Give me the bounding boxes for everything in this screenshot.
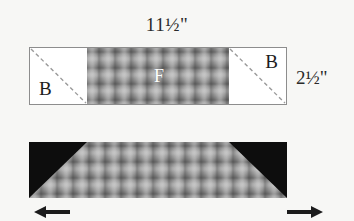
black-corner-triangle-left (29, 142, 87, 198)
dimension-label-width: 2½" (296, 67, 328, 89)
top-assembly-rectangle: F B B (29, 47, 287, 105)
binding-square-right: B (229, 48, 286, 104)
binding-label-right: B (265, 51, 278, 73)
arrow-left-icon (32, 203, 72, 221)
dimension-label-length: 11½" (112, 14, 222, 36)
fabric-label-f: F (154, 66, 164, 87)
black-corner-triangle-right (229, 142, 287, 198)
binding-label-left: B (39, 78, 52, 100)
diagram-canvas: 11½" F B B 2½" (0, 0, 354, 221)
bottom-finished-strip (29, 142, 287, 198)
arrow-right-icon (285, 203, 325, 221)
plaid-fabric-panel: F (87, 48, 231, 104)
binding-square-left: B (30, 48, 87, 104)
